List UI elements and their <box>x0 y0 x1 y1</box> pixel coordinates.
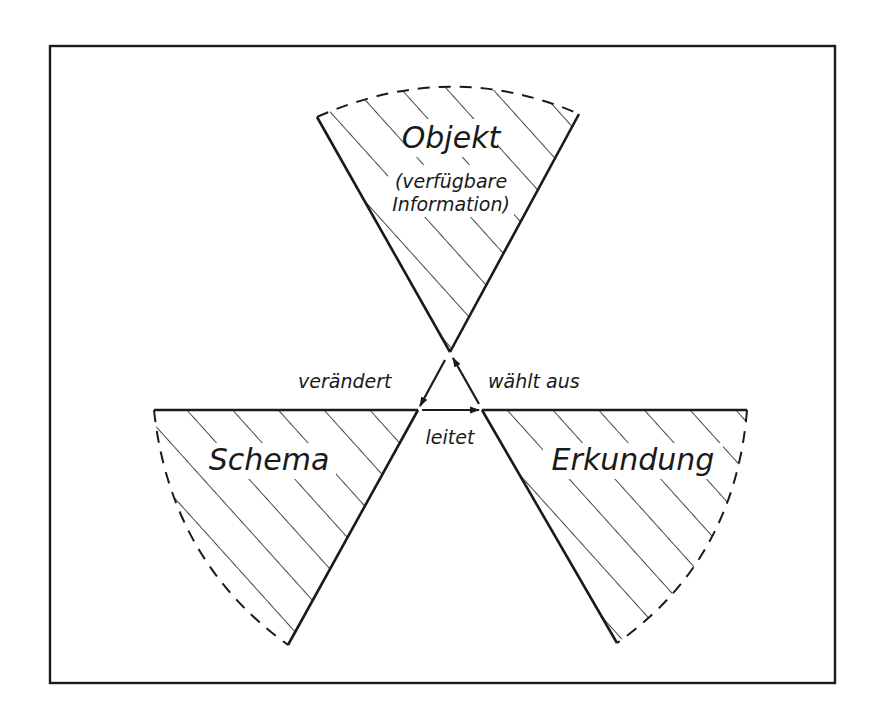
label-leitet: leitet <box>426 426 476 448</box>
label-schema: Schema <box>209 442 330 477</box>
label-waehlt-aus: wählt aus <box>488 370 580 392</box>
label-erkundung: Erkundung <box>552 442 715 477</box>
label-objekt-subtitle-1: (verfügbare <box>395 170 507 192</box>
label-objekt-subtitle-2: Information) <box>392 193 510 215</box>
perceptual-cycle-diagram: Objekt (verfügbare Information) Schema E… <box>0 0 877 723</box>
label-veraendert: verändert <box>298 370 393 392</box>
label-objekt: Objekt <box>402 120 502 155</box>
arrow-veraendert <box>420 360 445 406</box>
arrow-waehlt-aus <box>453 358 479 404</box>
